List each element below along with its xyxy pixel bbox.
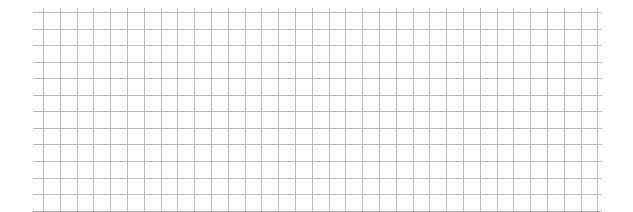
grid-paper [0,0,633,212]
